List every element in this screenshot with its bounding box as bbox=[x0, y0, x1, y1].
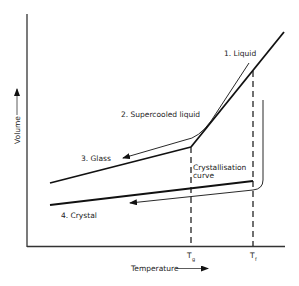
tg-subscript: g bbox=[192, 256, 195, 263]
supercooled-liquid-label: 2. Supercooled liquid bbox=[121, 110, 200, 119]
tf-subscript: f bbox=[255, 256, 257, 262]
glass-label: 3. Glass bbox=[81, 154, 111, 163]
crystallisation-curve-label-2: curve bbox=[193, 171, 214, 180]
glass-line bbox=[50, 147, 191, 183]
y-axis-label-group: Volume bbox=[13, 116, 22, 144]
y-axis-label: Volume bbox=[13, 116, 22, 144]
volume-temperature-diagram: Volume Temperature T g T f 1. Liquid 2. … bbox=[0, 0, 299, 286]
liquid-label: 1. Liquid bbox=[224, 49, 256, 58]
crystal-label: 4. Crystal bbox=[61, 211, 97, 220]
x-axis-label: Temperature bbox=[130, 264, 179, 273]
